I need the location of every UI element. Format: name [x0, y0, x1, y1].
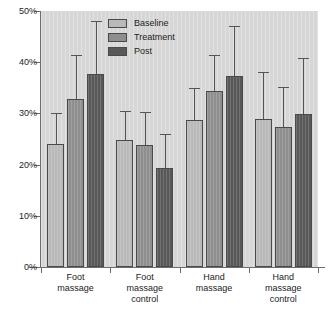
legend-item-post: Post: [108, 45, 175, 57]
chart-legend: Baseline Treatment Post: [108, 17, 175, 59]
legend-label-baseline: Baseline: [134, 19, 169, 28]
category-label: Footmassagecontrol: [110, 272, 179, 305]
x-axis-line: [29, 267, 325, 268]
error-bar-cap: [278, 87, 289, 88]
category-label-line: Foot: [110, 272, 179, 283]
category-label-line: massage: [41, 283, 110, 294]
y-tick-label: 40%: [7, 58, 37, 67]
bar: [116, 140, 133, 267]
category-label-line: massage: [180, 283, 249, 294]
bar: [275, 127, 292, 267]
error-bar-cap: [160, 134, 171, 135]
category-label-line: Hand: [180, 272, 249, 283]
category-label-line: Hand: [249, 272, 318, 283]
bar: [186, 120, 203, 267]
y-tick-label: 0%: [7, 263, 37, 272]
error-bar-cap: [71, 55, 82, 56]
error-bar-cap: [298, 58, 309, 59]
category-label: Handmassage: [180, 272, 249, 294]
y-tick-label: 20%: [7, 161, 37, 170]
category-label: Handmassagecontrol: [249, 272, 318, 305]
error-bar-cap: [229, 26, 240, 27]
bar: [67, 99, 84, 267]
x-axis-separator: [318, 268, 319, 273]
error-bar-line: [165, 134, 166, 168]
error-bar-line: [194, 88, 195, 120]
error-bar-line: [125, 111, 126, 140]
legend-swatch-treatment: [108, 33, 127, 42]
legend-item-baseline: Baseline: [108, 17, 175, 29]
error-bar-cap: [209, 55, 220, 56]
category-label-line: Foot: [41, 272, 110, 283]
error-bar-line: [145, 112, 146, 145]
category-label: Footmassage: [41, 272, 110, 294]
bar: [206, 91, 223, 267]
error-bar-cap: [91, 21, 102, 22]
error-bar-line: [96, 21, 97, 74]
y-tick-label: 50%: [7, 7, 37, 16]
y-axis-line: [40, 11, 41, 268]
legend-swatch-post: [108, 47, 127, 56]
error-bar-line: [283, 87, 284, 127]
error-bar-line: [303, 58, 304, 114]
error-bar-cap: [51, 113, 62, 114]
error-bar-line: [234, 26, 235, 76]
category-label-line: control: [110, 294, 179, 305]
bar: [47, 144, 64, 267]
y-tick-label: 30%: [7, 109, 37, 118]
legend-swatch-baseline: [108, 19, 127, 28]
y-tick-label: 10%: [7, 212, 37, 221]
category-label-line: massage: [249, 283, 318, 294]
error-bar-line: [214, 55, 215, 91]
error-bar-cap: [140, 112, 151, 113]
bar-chart: 0%10%20%30%40%50% FootmassageFootmassage…: [0, 0, 328, 311]
category-label-line: control: [249, 294, 318, 305]
error-bar-line: [56, 113, 57, 144]
error-bar-line: [263, 72, 264, 119]
error-bar-cap: [258, 72, 269, 73]
bar: [226, 76, 243, 267]
bar: [156, 168, 173, 267]
legend-label-treatment: Treatment: [134, 33, 175, 42]
error-bar-line: [76, 55, 77, 100]
category-label-line: massage: [110, 283, 179, 294]
bar: [295, 114, 312, 267]
legend-item-treatment: Treatment: [108, 31, 175, 43]
bar: [136, 145, 153, 267]
bar: [87, 74, 104, 267]
bar: [255, 119, 272, 267]
error-bar-cap: [120, 111, 131, 112]
legend-label-post: Post: [134, 47, 152, 56]
error-bar-cap: [189, 88, 200, 89]
